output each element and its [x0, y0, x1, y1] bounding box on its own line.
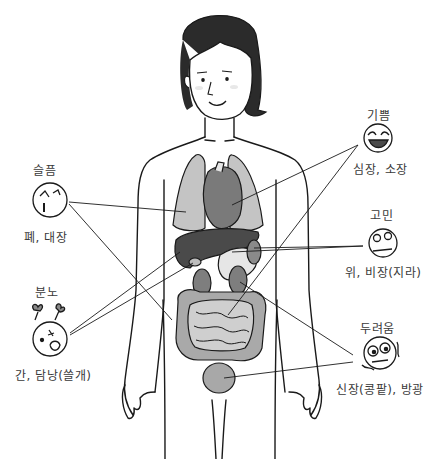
spleen	[247, 240, 261, 264]
scared-face-icon	[362, 337, 399, 370]
emotion-label-worry: 고민	[370, 206, 393, 223]
emotion-label-sadness: 슬픔	[33, 161, 56, 178]
head	[180, 16, 266, 120]
organ-label-anger: 간, 담낭(쓸개)	[15, 366, 92, 383]
kidney-right	[229, 266, 247, 294]
heart	[203, 167, 242, 229]
emotion-label-fear: 두려움	[360, 319, 395, 336]
bladder	[203, 363, 235, 393]
organ-label-fear: 신장(콩팥), 방광	[336, 380, 424, 397]
right-eye	[225, 77, 229, 81]
left-eye	[201, 78, 205, 82]
crying-face-icon	[33, 183, 67, 217]
laughing-face-icon	[364, 124, 392, 152]
emotion-label-joy: 기쁨	[367, 106, 390, 123]
emotion-label-anger: 분노	[35, 283, 58, 300]
small-intestine	[188, 300, 254, 351]
organ-label-sadness: 폐, 대장	[24, 228, 67, 245]
worried-face-icon	[369, 229, 397, 257]
organ-label-worry: 위, 비장(지라)	[345, 263, 422, 280]
lung-left	[173, 155, 205, 231]
organs	[173, 155, 266, 393]
organ-label-joy: 심장, 소장	[353, 160, 408, 177]
angry-face-icon	[33, 304, 67, 356]
